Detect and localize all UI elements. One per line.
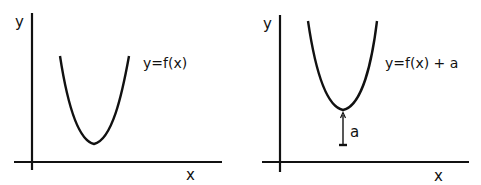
left-graph: y x y=f(x) xyxy=(14,13,222,184)
shift-label-a: a xyxy=(350,123,359,141)
right-x-axis-label: x xyxy=(434,167,443,185)
left-x-axis-label: x xyxy=(186,166,195,184)
right-curve-label: y=f(x) + a xyxy=(385,55,458,71)
function-shift-diagram: y x y=f(x) y x y=f(x) + a a xyxy=(0,0,481,185)
shift-arrow xyxy=(339,113,347,146)
right-graph: y x y=f(x) + a a xyxy=(262,15,469,185)
left-curve-label: y=f(x) xyxy=(143,55,187,71)
right-y-axis-label: y xyxy=(263,15,272,33)
right-curve-f-plus-a xyxy=(308,21,377,110)
left-y-axis-label: y xyxy=(15,13,24,31)
left-curve-f xyxy=(60,56,129,144)
